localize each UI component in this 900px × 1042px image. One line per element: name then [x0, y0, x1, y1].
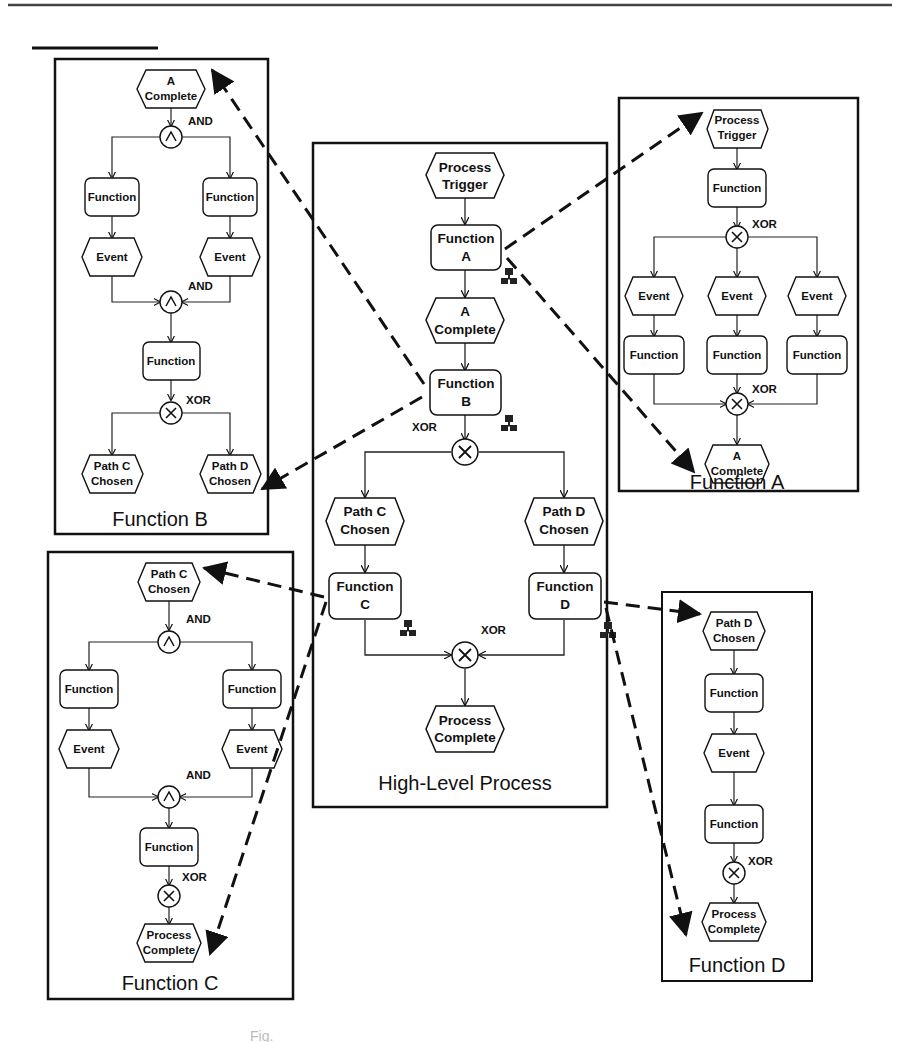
svg-text:Complete: Complete [434, 730, 496, 745]
xor-label: XOR [748, 855, 774, 867]
svg-text:Complete: Complete [434, 322, 496, 337]
function-b-node[interactable]: Function B [430, 370, 501, 415]
panel-title: Function D [689, 954, 786, 976]
svg-text:A: A [733, 450, 741, 462]
xor-split-connector [452, 439, 478, 465]
panel-function-c: Path C Chosen AND Function Function Even… [48, 552, 293, 999]
svg-text:Event: Event [721, 290, 752, 302]
svg-text:A: A [461, 249, 471, 264]
svg-text:A: A [460, 304, 470, 319]
link-fd-to-end [606, 608, 686, 935]
event-node[interactable]: Event [788, 277, 846, 315]
svg-text:C: C [360, 597, 370, 612]
xor-connector [160, 402, 182, 424]
svg-text:Path C: Path C [151, 568, 187, 580]
link-fa-to-trigger [505, 113, 702, 249]
and-split-connector [160, 126, 182, 148]
drilldown-links [204, 70, 702, 954]
function-node[interactable]: Function [223, 670, 281, 708]
svg-text:Process: Process [147, 929, 192, 941]
function-node[interactable]: Function [203, 178, 257, 216]
svg-text:Function: Function [438, 231, 495, 246]
xor-join-connector [726, 393, 748, 415]
and-join-connector [160, 291, 182, 313]
function-node[interactable]: Function [143, 342, 200, 380]
panel-title: Function A [690, 471, 785, 493]
link-fd-to-start [604, 602, 700, 614]
system-icon [501, 268, 517, 284]
panel-function-b: A Complete AND Function Function Event E… [55, 59, 268, 534]
svg-text:Function: Function [438, 376, 495, 391]
function-node[interactable]: Function [140, 828, 198, 866]
event-path-d-chosen[interactable]: Path D Chosen [200, 455, 261, 493]
function-node[interactable]: Function [707, 336, 767, 374]
svg-text:Function: Function [206, 191, 255, 203]
link-fc-to-end [210, 602, 326, 954]
system-icon [400, 620, 416, 636]
svg-text:Trigger: Trigger [442, 177, 489, 192]
xor-split-connector [726, 226, 748, 248]
svg-text:Chosen: Chosen [91, 475, 133, 487]
svg-text:Path C: Path C [344, 504, 387, 519]
function-node[interactable]: Function [708, 169, 766, 207]
and-label: AND [186, 769, 211, 781]
svg-text:B: B [461, 394, 471, 409]
svg-text:Function: Function [228, 683, 277, 695]
event-path-c-chosen[interactable]: Path C Chosen [82, 455, 143, 493]
svg-text:Function: Function [713, 349, 762, 361]
svg-text:Event: Event [638, 290, 669, 302]
function-node[interactable]: Function [85, 178, 139, 216]
svg-text:Path D: Path D [543, 504, 586, 519]
event-a-complete[interactable]: A Complete [426, 298, 504, 343]
event-process-complete[interactable]: Process Complete [426, 706, 504, 752]
link-fc-to-start [204, 568, 324, 597]
event-node[interactable]: Event [625, 277, 683, 315]
svg-text:Function: Function [630, 349, 679, 361]
svg-text:Process: Process [439, 713, 492, 728]
event-process-trigger[interactable]: Process Trigger [426, 153, 504, 198]
function-node[interactable]: Function [787, 336, 847, 374]
link-fb-to-start [212, 70, 424, 384]
function-d-node[interactable]: Function D [529, 573, 601, 619]
svg-text:Chosen: Chosen [539, 522, 589, 537]
function-node[interactable]: Function [705, 805, 763, 843]
svg-text:Event: Event [236, 743, 267, 755]
link-fb-to-end [262, 397, 422, 489]
event-process-complete[interactable]: Process Complete [137, 924, 201, 962]
panel-title: Function B [112, 508, 208, 530]
event-path-c-chosen[interactable]: Path C Chosen [326, 498, 404, 545]
svg-text:Complete: Complete [143, 944, 195, 956]
svg-text:Event: Event [96, 251, 127, 263]
event-path-d-chosen[interactable]: Path D Chosen [703, 612, 765, 650]
svg-text:Function: Function [88, 191, 137, 203]
event-node[interactable]: Event [59, 730, 119, 768]
xor-label: XOR [186, 394, 212, 406]
event-a-complete[interactable]: A Complete [137, 70, 205, 108]
event-node[interactable]: Event [200, 238, 260, 276]
event-path-d-chosen[interactable]: Path D Chosen [525, 498, 603, 545]
event-path-c-chosen[interactable]: Path C Chosen [138, 563, 200, 601]
function-node[interactable]: Function [705, 674, 763, 712]
svg-text:Chosen: Chosen [209, 475, 251, 487]
svg-text:Function: Function [337, 579, 394, 594]
panel-title: High-Level Process [378, 772, 551, 794]
event-node[interactable]: Event [704, 734, 764, 772]
function-node[interactable]: Function [624, 336, 684, 374]
event-node[interactable]: Event [222, 730, 282, 768]
svg-text:Event: Event [73, 743, 104, 755]
function-a-node[interactable]: Function A [431, 225, 501, 270]
panel-title: Function C [122, 972, 219, 994]
xor-label: XOR [182, 871, 208, 883]
svg-text:Function: Function [710, 818, 759, 830]
svg-text:A: A [167, 75, 175, 87]
function-node[interactable]: Function [60, 670, 118, 708]
event-node[interactable]: Event [82, 238, 142, 276]
function-c-node[interactable]: Function C [329, 573, 401, 619]
event-node[interactable]: Event [708, 277, 766, 315]
xor-connector [723, 862, 745, 884]
event-process-trigger[interactable]: Process Trigger [707, 110, 768, 148]
xor-label: XOR [752, 218, 778, 230]
and-join-connector [158, 786, 180, 808]
panel-function-a: Process Trigger Function XOR Event Event… [619, 98, 858, 493]
event-process-complete[interactable]: Process Complete [702, 903, 766, 941]
